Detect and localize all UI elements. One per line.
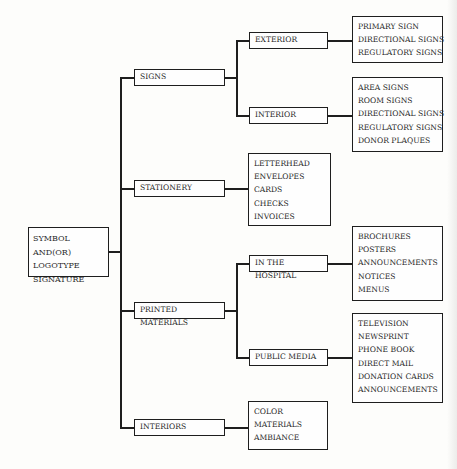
branch-line — [236, 263, 238, 358]
connector — [120, 77, 134, 79]
list-item: DONOR PLAQUES — [358, 134, 442, 147]
connector — [328, 115, 352, 117]
list-item: DIRECT MAIL — [358, 357, 442, 370]
category-label: STATIONERY — [140, 183, 192, 192]
connector — [120, 427, 134, 429]
list-item: CHECKS — [254, 197, 330, 210]
list-item: AMBIANCE — [254, 431, 327, 444]
page-edge-shadow — [447, 0, 457, 469]
category-label: INTERIORS — [140, 422, 186, 431]
subcategory-label: PUBLIC MEDIA — [255, 352, 316, 361]
connector — [236, 115, 249, 117]
connector — [328, 357, 352, 359]
list-item: ENVELOPES — [254, 170, 330, 183]
list-interior: AREA SIGNS ROOM SIGNS DIRECTIONAL SIGNS … — [352, 77, 443, 152]
connector — [225, 188, 248, 190]
list-item: PRIMARY SIGN — [358, 20, 442, 33]
connector — [328, 263, 352, 265]
list-item: ANNOUNCEMENTS — [358, 383, 442, 396]
list-item: MATERIALS — [254, 418, 327, 431]
root-line: LOGOTYPE — [33, 259, 108, 273]
connector — [236, 357, 249, 359]
category-stationery: STATIONERY — [134, 180, 225, 197]
list-item: ROOM SIGNS — [358, 94, 442, 107]
list-item: NOTICES — [358, 270, 442, 283]
category-signs: SIGNS — [134, 69, 225, 86]
root-line: SYMBOL AND(OR) — [33, 232, 108, 259]
list-item: INVOICES — [254, 210, 330, 223]
subcategory-label: INTERIOR — [255, 110, 296, 119]
list-item: DIRECTIONAL SIGNS — [358, 107, 442, 120]
category-label: SIGNS — [140, 72, 166, 81]
list-item: REGULATORY SIGNS — [358, 121, 442, 134]
category-label: PRINTED MATERIALS — [140, 305, 188, 327]
subcategory-interior: INTERIOR — [249, 107, 328, 124]
list-item: COLOR — [254, 405, 327, 418]
list-item: AREA SIGNS — [358, 81, 442, 94]
list-item: CARDS — [254, 183, 330, 196]
connector — [120, 310, 134, 312]
category-interiors: INTERIORS — [134, 419, 225, 436]
connector — [120, 188, 134, 190]
list-item: POSTERS — [358, 243, 442, 256]
root-node: SYMBOL AND(OR) LOGOTYPE SIGNATURE — [28, 227, 109, 277]
list-item: DIRECTIONAL SIGNS — [358, 33, 442, 46]
connector — [236, 263, 249, 265]
subcategory-label: IN THE HOSPITAL — [255, 258, 296, 280]
list-item: ANNOUNCEMENTS — [358, 256, 442, 269]
list-item: REGULATORY SIGNS — [358, 46, 442, 59]
subcategory-in-the-hospital: IN THE HOSPITAL — [249, 255, 328, 272]
list-stationery: LETTERHEAD ENVELOPES CARDS CHECKS INVOIC… — [248, 153, 331, 226]
list-exterior: PRIMARY SIGN DIRECTIONAL SIGNS REGULATOR… — [352, 16, 443, 63]
category-printed-materials: PRINTED MATERIALS — [134, 302, 225, 319]
list-item: TELEVISION — [358, 317, 442, 330]
list-item: LETTERHEAD — [254, 157, 330, 170]
list-item: MENUS — [358, 283, 442, 296]
connector — [328, 40, 352, 42]
connector — [236, 40, 249, 42]
list-interiors: COLOR MATERIALS AMBIANCE — [248, 401, 328, 450]
list-item: DONATION CARDS — [358, 370, 442, 383]
trunk-line — [120, 77, 122, 428]
branch-line — [236, 40, 238, 116]
connector — [225, 427, 248, 429]
subcategory-exterior: EXTERIOR — [249, 32, 328, 49]
list-public-media: TELEVISION NEWSPRINT PHONE BOOK DIRECT M… — [352, 313, 443, 403]
list-in-the-hospital: BROCHURES POSTERS ANNOUNCEMENTS NOTICES … — [352, 226, 443, 301]
list-item: NEWSPRINT — [358, 330, 442, 343]
root-line: SIGNATURE — [33, 273, 108, 287]
subcategory-public-media: PUBLIC MEDIA — [249, 349, 328, 366]
subcategory-label: EXTERIOR — [255, 35, 297, 44]
list-item: PHONE BOOK — [358, 343, 442, 356]
list-item: BROCHURES — [358, 230, 442, 243]
